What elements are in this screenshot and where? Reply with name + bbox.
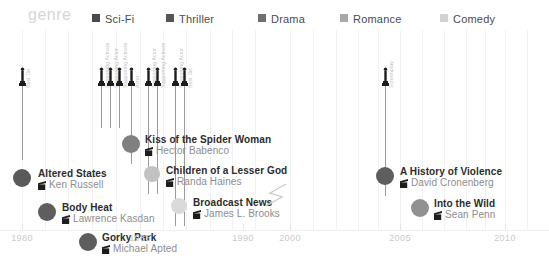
chart-legend: genre Sci-FiThrillerDramaRomanceComedy: [0, 0, 549, 30]
film-director-name: David Cronenberg: [411, 177, 494, 189]
film-label[interactable]: Into the WildSean Penn: [434, 198, 495, 221]
axis-break-icon: [262, 182, 288, 208]
film-dot[interactable]: [122, 135, 140, 153]
axis-tick-label: 2005: [389, 233, 411, 243]
axis-line: [0, 230, 549, 231]
film-title: Children of a Lesser God: [166, 165, 287, 176]
legend-item-sci-fi[interactable]: Sci-Fi: [92, 9, 134, 23]
nomination-category-label: Best Dir.: [187, 67, 193, 88]
gridline: [45, 30, 46, 230]
film-title: Kiss of the Spider Woman: [145, 134, 271, 145]
clapper-icon: [434, 211, 442, 220]
nomination-category-label: Actor: [134, 75, 140, 88]
film-director-row: Ken Russell: [38, 179, 107, 191]
gridline: [140, 30, 141, 230]
gridline: [68, 30, 69, 230]
axis-tick-label: 1990: [232, 233, 254, 243]
axis-tick: [400, 224, 401, 230]
film-director-name: Sean Penn: [445, 209, 495, 221]
axis-tick-label: 2010: [494, 233, 516, 243]
film-director-name: Ken Russell: [49, 179, 103, 191]
clapper-icon: [38, 181, 46, 190]
film-label[interactable]: Altered StatesKen Russell: [38, 168, 107, 191]
clapper-icon: [62, 215, 70, 224]
gridline: [92, 30, 93, 230]
legend-swatch-icon: [258, 14, 266, 22]
clapper-icon: [166, 178, 174, 187]
film-title: Into the Wild: [434, 198, 495, 209]
legend-item-drama[interactable]: Drama: [258, 9, 305, 23]
gridline: [527, 30, 528, 230]
x-axis: 198019851990200020052010: [0, 230, 549, 264]
axis-tick-label: 2000: [279, 233, 301, 243]
legend-item-label: Romance: [353, 13, 401, 25]
legend-swatch-icon: [340, 14, 348, 22]
axis-tick: [505, 224, 506, 230]
legend-title: genre: [28, 6, 71, 24]
film-title: Body Heat: [62, 202, 155, 213]
gridline: [358, 30, 359, 230]
film-dot[interactable]: [13, 169, 31, 187]
clapper-icon: [400, 179, 408, 188]
film-label[interactable]: Body HeatLawrence Kasdan: [62, 202, 155, 225]
axis-tick: [243, 224, 244, 230]
legend-swatch-icon: [440, 14, 448, 22]
legend-item-label: Sci-Fi: [105, 13, 134, 25]
film-director-row: Hector Babenco: [145, 145, 271, 157]
nomination-category-label: Supporting Actress: [160, 42, 166, 88]
gridline: [290, 30, 291, 230]
gridline: [313, 30, 314, 230]
gridline: [505, 30, 506, 230]
nomination-stem: [101, 86, 102, 128]
axis-tick: [22, 224, 23, 230]
film-director-row: Sean Penn: [434, 209, 495, 221]
film-label[interactable]: Kiss of the Spider WomanHector Babenco: [145, 134, 271, 157]
plot-area: Best Dir.Supporting ActressSupporting Ac…: [0, 30, 549, 230]
nomination-stem: [119, 86, 120, 128]
film-title: A History of Violence: [400, 166, 502, 177]
legend-item-comedy[interactable]: Comedy: [440, 9, 495, 23]
axis-tick: [290, 224, 291, 230]
film-dot[interactable]: [38, 203, 56, 221]
legend-item-thriller[interactable]: Thriller: [166, 9, 214, 23]
film-dot[interactable]: [411, 199, 429, 217]
legend-swatch-icon: [166, 14, 174, 22]
film-label[interactable]: A History of ViolenceDavid Cronenberg: [400, 166, 502, 189]
film-title: Altered States: [38, 168, 107, 179]
film-dot[interactable]: [144, 166, 160, 182]
nomination-stem: [22, 86, 23, 160]
film-director-name: Lawrence Kasdan: [73, 213, 155, 225]
legend-item-romance[interactable]: Romance: [340, 9, 401, 23]
legend-item-label: Drama: [271, 13, 305, 25]
axis-tick-label: 1980: [11, 233, 33, 243]
nomination-category-label: Best Dir.: [25, 67, 31, 88]
clapper-icon: [145, 147, 153, 156]
axis-tick-label: 1985: [129, 233, 151, 243]
film-director-name: Randa Haines: [177, 176, 242, 188]
legend-swatch-icon: [92, 14, 100, 22]
film-director-row: David Cronenberg: [400, 177, 502, 189]
gridline: [378, 30, 379, 230]
nomination-stem: [110, 86, 111, 128]
gridline: [336, 30, 337, 230]
genre-timeline-chart: genre Sci-FiThrillerDramaRomanceComedy B…: [0, 0, 549, 264]
film-director-name: Hector Babenco: [156, 145, 229, 157]
nomination-category-label: Screenplay: [388, 61, 394, 88]
film-director-name: James L. Brooks: [204, 208, 280, 220]
gridline: [186, 30, 187, 230]
axis-tick: [140, 224, 141, 230]
film-dot[interactable]: [376, 167, 394, 185]
film-dot[interactable]: [171, 198, 187, 214]
legend-item-label: Thriller: [179, 13, 214, 25]
legend-item-label: Comedy: [453, 13, 495, 25]
clapper-icon: [193, 210, 201, 219]
film-director-row: James L. Brooks: [193, 208, 280, 220]
gridline: [400, 30, 401, 230]
